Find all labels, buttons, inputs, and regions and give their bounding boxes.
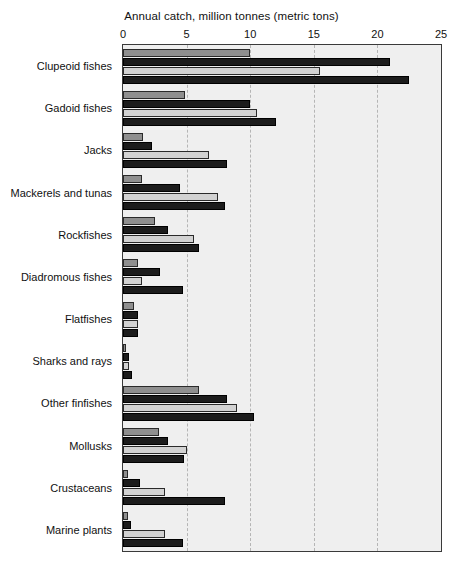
- bar-chart: Annual catch, million tonnes (metric ton…: [0, 0, 463, 581]
- x-axis-tick-label: 5: [184, 28, 190, 40]
- bar: [123, 428, 159, 436]
- bar: [123, 404, 237, 412]
- x-axis-tick-label: 0: [120, 28, 126, 40]
- bar: [123, 497, 225, 505]
- bar: [123, 470, 128, 478]
- bar: [123, 512, 128, 520]
- bar: [123, 100, 250, 108]
- category-label: Diadromous fishes: [21, 271, 112, 283]
- bar: [123, 268, 160, 276]
- category-label: Flatfishes: [65, 313, 112, 325]
- x-axis-tick-label: 15: [308, 28, 320, 40]
- bar: [123, 362, 129, 370]
- bar: [123, 118, 276, 126]
- bar: [123, 133, 143, 141]
- bar: [123, 455, 184, 463]
- bar: [123, 217, 155, 225]
- bar: [123, 193, 218, 201]
- bar: [123, 91, 185, 99]
- bar: [123, 329, 138, 337]
- bar: [123, 142, 152, 150]
- category-label: Clupeoid fishes: [37, 60, 112, 72]
- bar: [123, 151, 209, 159]
- bar: [123, 521, 131, 529]
- bar: [123, 184, 180, 192]
- bar: [123, 386, 199, 394]
- category-label: Jacks: [84, 144, 112, 156]
- bar: [123, 371, 132, 379]
- bar: [123, 244, 199, 252]
- bars-layer: [123, 45, 441, 551]
- bar: [123, 67, 320, 75]
- bar: [123, 175, 142, 183]
- y-axis-category-labels: Clupeoid fishesGadoid fishesJacksMackere…: [0, 44, 118, 552]
- bar: [123, 259, 138, 267]
- bar: [123, 320, 138, 328]
- bar: [123, 286, 183, 294]
- bar: [123, 226, 168, 234]
- bar: [123, 479, 140, 487]
- bar: [123, 76, 409, 84]
- bar: [123, 302, 134, 310]
- category-label: Other finfishes: [41, 397, 112, 409]
- bar: [123, 58, 390, 66]
- x-axis: 0510152025: [122, 28, 442, 44]
- bar: [123, 202, 225, 210]
- bar: [123, 395, 227, 403]
- category-label: Rockfishes: [58, 229, 112, 241]
- bar: [123, 539, 183, 547]
- bar: [123, 160, 227, 168]
- bar: [123, 109, 257, 117]
- x-axis-tick-label: 25: [435, 28, 447, 40]
- bar: [123, 49, 250, 57]
- category-label: Sharks and rays: [33, 355, 112, 367]
- bar: [123, 235, 194, 243]
- bar: [123, 413, 254, 421]
- bar: [123, 530, 165, 538]
- bar: [123, 446, 187, 454]
- bar: [123, 277, 142, 285]
- bar: [123, 488, 165, 496]
- x-axis-tick-label: 20: [371, 28, 383, 40]
- bar: [123, 344, 126, 352]
- category-label: Mackerels and tunas: [11, 187, 113, 199]
- category-label: Crustaceans: [50, 482, 112, 494]
- x-axis-tick-label: 10: [244, 28, 256, 40]
- category-label: Marine plants: [46, 524, 112, 536]
- bar: [123, 311, 138, 319]
- category-label: Gadoid fishes: [45, 102, 112, 114]
- category-label: Mollusks: [69, 440, 112, 452]
- bar: [123, 353, 129, 361]
- chart-title: Annual catch, million tonnes (metric ton…: [0, 10, 463, 22]
- bar: [123, 437, 168, 445]
